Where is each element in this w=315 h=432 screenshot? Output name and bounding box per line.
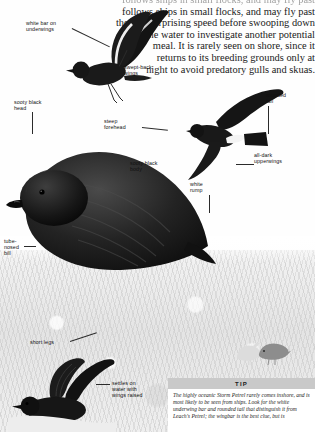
tip-box: TIP The highly oceanic Storm Petrel rare…: [168, 378, 315, 432]
label-sooty-black-head: sooty black head: [14, 99, 62, 111]
leader-rounded-tail: [268, 106, 269, 134]
leader-settles-on-water: [96, 384, 110, 385]
label-all-dark-upperwings: all-dark upperwings: [254, 152, 310, 164]
storm-petrel-main-portrait: [2, 120, 217, 332]
label-sooty-black-body: sooty black body: [130, 160, 178, 172]
label-white-bar-on-underwings: white bar on underwings: [26, 20, 82, 32]
label-tube-nosed-bill: tube- nosed bill: [4, 238, 30, 257]
field-guide-page: follows ships in small flocks, and may f…: [0, 0, 315, 432]
comparison-bird-dark-silhouette: [259, 343, 293, 365]
label-steep-forehead: steep forehead: [104, 118, 148, 130]
description-line-clipped: follows ships in small flocks, and may f…: [96, 0, 315, 6]
label-short-legs: short legs: [30, 339, 70, 345]
leader-all-dark-upperwings: [236, 164, 254, 165]
leader-white-rump: [209, 195, 210, 213]
label-settles-on-water: settles on water with wings raised: [112, 380, 162, 399]
comparison-bird-light-silhouette: [237, 343, 260, 365]
tip-box-body-text: The highly oceanic Storm Petrel rarely c…: [168, 389, 315, 420]
size-comparison-icons: [233, 340, 293, 366]
tip-box-heading-label: TIP: [235, 381, 248, 387]
tip-box-header: TIP: [168, 378, 315, 389]
label-rounded-tail: rounded tail: [266, 92, 308, 104]
leader-sooty-black-head: [32, 112, 33, 134]
label-swept-back-wings: swept-back wings: [124, 64, 170, 76]
petrel-settling-on-water-illustration: [8, 356, 116, 432]
label-white-rump: white rump: [190, 181, 220, 193]
